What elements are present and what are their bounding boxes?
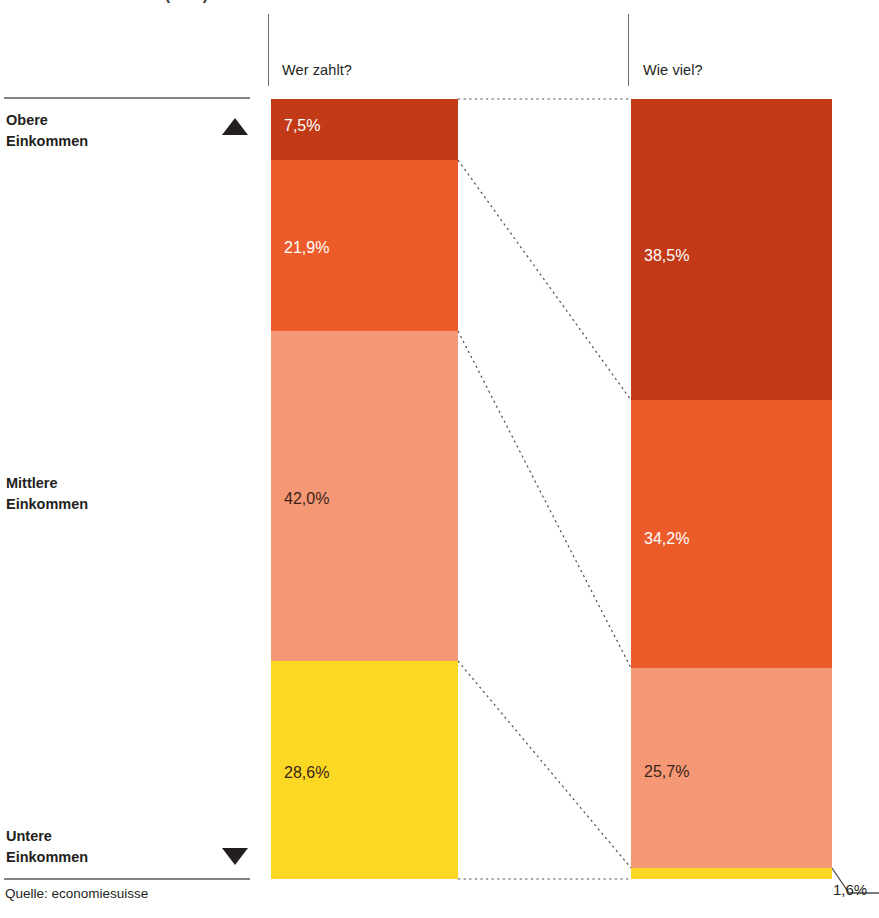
triangle-up-icon — [222, 118, 248, 135]
bar-segment-mittlere[interactable]: 25,7% — [631, 668, 832, 868]
bar-segment-value: 42,0% — [284, 490, 329, 508]
bar-segment-value: 21,9% — [284, 239, 329, 257]
bar-segment-mittlere[interactable]: 42,0% — [271, 331, 458, 661]
column-header-wer-zahlt: Wer zahlt? — [282, 62, 352, 78]
bar-segment-value: 7,5% — [284, 117, 320, 135]
category-label-untere-line2: Einkommen — [6, 847, 206, 868]
page-title: Wer zahlt wie viel (in %) an Steuern? — [0, 0, 879, 6]
bar-segment-obere-oberste[interactable]: 38,5% — [631, 99, 832, 400]
category-rule-bottom — [4, 878, 250, 880]
bar-segment-value: 28,6% — [284, 764, 329, 782]
category-label-untere-line1: Untere — [6, 828, 52, 844]
bar-segment-value: 25,7% — [644, 763, 689, 781]
triangle-down-icon — [222, 848, 248, 865]
category-rule-top — [4, 97, 250, 99]
category-label-untere: Untere Einkommen — [6, 826, 206, 867]
bar-segment-value: 34,2% — [644, 530, 689, 548]
page-title-text: Wer zahlt wie viel (in %) an Steuern? — [28, 0, 305, 4]
wie-viel-bar: 38,5% 34,2% 25,7% — [631, 99, 832, 879]
bar-segment-untere[interactable] — [631, 868, 832, 879]
column-rule-wie-viel — [628, 14, 629, 86]
category-label-obere-line2: Einkommen — [6, 131, 206, 152]
category-label-mittlere: Mittlere Einkommen — [6, 473, 206, 514]
callout-label-1-6-percent: 1,6% — [833, 881, 867, 898]
column-rule-wer-zahlt — [268, 14, 269, 86]
bar-segment-obere-oberste[interactable]: 7,5% — [271, 99, 458, 160]
wer-zahlt-bar: 7,5% 21,9% 42,0% 28,6% — [271, 99, 458, 879]
bar-segment-obere-zweite[interactable]: 34,2% — [631, 400, 832, 668]
category-label-mittlere-line1: Mittlere — [6, 475, 58, 491]
column-header-wie-viel: Wie viel? — [643, 62, 703, 78]
category-label-mittlere-line2: Einkommen — [6, 494, 206, 515]
bar-segment-value: 38,5% — [644, 247, 689, 265]
bar-segment-untere[interactable]: 28,6% — [271, 661, 458, 879]
chart-canvas: Wer zahlt wie viel (in %) an Steuern? We… — [0, 0, 879, 918]
bar-segment-obere-zweite[interactable]: 21,9% — [271, 160, 458, 331]
source-note: Quelle: economiesuisse — [5, 886, 148, 901]
category-label-obere-line1: Obere — [6, 112, 48, 128]
category-label-obere: Obere Einkommen — [6, 110, 206, 151]
